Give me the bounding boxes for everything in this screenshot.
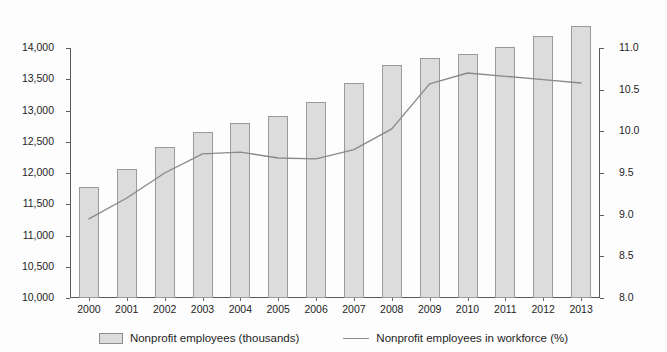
line-swatch-icon: [343, 338, 369, 339]
y-axis-right-tick-label: 9.0: [610, 209, 634, 220]
x-axis-tick: [240, 298, 241, 301]
x-axis-tick-label: 2008: [372, 303, 412, 315]
legend-label-line: Nonprofit employees in workforce (%): [376, 332, 568, 344]
x-axis-tick: [89, 298, 90, 301]
y-axis-right-labels: 8.08.59.09.510.010.511.0: [610, 48, 665, 298]
x-axis-tick: [354, 298, 355, 301]
x-axis-tick-label: 2007: [334, 303, 374, 315]
x-axis-tick: [127, 298, 128, 301]
y-axis-right-tick: [600, 256, 604, 257]
x-axis-tick: [165, 298, 166, 301]
y-axis-left-tick: [66, 48, 70, 49]
x-axis-tick: [430, 298, 431, 301]
y-axis-left-tick: [66, 204, 70, 205]
y-axis-right-tick-label: 10.0: [610, 125, 639, 136]
x-axis-tick: [278, 298, 279, 301]
legend-label-bars: Nonprofit employees (thousands): [130, 332, 299, 344]
plot-area: [70, 48, 600, 298]
chart-figure: 10,00010,50011,00011,50012,00012,50013,0…: [0, 0, 667, 352]
x-axis-tick: [505, 298, 506, 301]
x-axis-tick-label: 2000: [69, 303, 109, 315]
y-axis-right-tick: [600, 215, 604, 216]
y-axis-right-tick: [600, 298, 604, 299]
line-series-group: [70, 48, 600, 298]
bar-swatch-icon: [99, 333, 123, 344]
legend-item-bars: Nonprofit employees (thousands): [99, 332, 299, 344]
x-axis-tick-label: 2006: [296, 303, 336, 315]
y-axis-left-tick-label: 13,000: [0, 105, 62, 116]
y-axis-left-tick-label: 11,500: [0, 198, 62, 209]
y-axis-right-tick-label: 8.5: [610, 250, 634, 261]
y-axis-left-tick-label: 11,000: [0, 230, 62, 241]
y-axis-left-tick-label: 12,000: [0, 167, 62, 178]
y-axis-right-tick-label: 9.5: [610, 167, 634, 178]
x-axis-tick: [543, 298, 544, 301]
y-axis-left-tick-label: 10,500: [0, 261, 62, 272]
y-axis-left-tick-label: 10,000: [0, 292, 62, 303]
x-axis-tick: [392, 298, 393, 301]
y-axis-left-tick: [66, 267, 70, 268]
legend-item-line: Nonprofit employees in workforce (%): [343, 332, 568, 344]
y-axis-right-tick: [600, 90, 604, 91]
x-axis-tick: [203, 298, 204, 301]
y-axis-right-tick-label: 8.0: [610, 292, 634, 303]
y-axis-left-tick: [66, 142, 70, 143]
x-axis-tick-label: 2013: [561, 303, 601, 315]
y-axis-left-tick: [66, 173, 70, 174]
x-axis-tick-label: 2002: [145, 303, 185, 315]
y-axis-right-tick-label: 11.0: [610, 42, 639, 53]
x-axis-tick-label: 2001: [107, 303, 147, 315]
y-axis-left-tick-label: 14,000: [0, 42, 62, 53]
x-axis-tick-label: 2004: [220, 303, 260, 315]
x-axis-tick: [468, 298, 469, 301]
x-axis-labels: 2000200120022003200420052006200720082009…: [70, 301, 600, 317]
x-axis-tick: [581, 298, 582, 301]
y-axis-left-tick: [66, 236, 70, 237]
y-axis-left-tick: [66, 79, 70, 80]
y-axis-right-tick: [600, 48, 604, 49]
y-axis-right-tick: [600, 131, 604, 132]
y-axis-left-tick-label: 12,500: [0, 136, 62, 147]
x-axis-tick-label: 2010: [448, 303, 488, 315]
y-axis-right-tick-label: 10.5: [610, 84, 639, 95]
x-axis-tick-label: 2011: [485, 303, 525, 315]
y-axis-left-tick-label: 13,500: [0, 73, 62, 84]
y-axis-left-labels: 10,00010,50011,00011,50012,00012,50013,0…: [0, 48, 62, 298]
y-axis-left-tick: [66, 111, 70, 112]
line-series-path: [89, 73, 581, 219]
x-axis-tick-label: 2009: [410, 303, 450, 315]
y-axis-left-tick: [66, 298, 70, 299]
x-axis-tick-label: 2003: [183, 303, 223, 315]
y-axis-right-tick: [600, 173, 604, 174]
x-axis-tick: [316, 298, 317, 301]
chart-legend: Nonprofit employees (thousands) Nonprofi…: [0, 326, 667, 350]
x-axis-tick-label: 2012: [523, 303, 563, 315]
x-axis-tick-label: 2005: [258, 303, 298, 315]
